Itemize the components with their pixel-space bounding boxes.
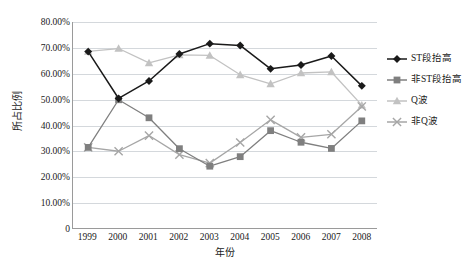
- legend-item-3[interactable]: 非Q波: [386, 111, 475, 132]
- data-point-marker: [145, 131, 153, 139]
- y-axis-tick-label: 70.00%: [4, 43, 70, 53]
- y-axis-title: 所占比例: [12, 71, 24, 151]
- data-point-marker: [236, 71, 244, 79]
- legend-label: Q波: [411, 95, 428, 106]
- y-axis-tick-labels: 010.00%20.00%30.00%40.00%50.00%60.00%70.…: [0, 22, 70, 229]
- x-axis-tick-label: 2001: [131, 231, 165, 243]
- data-point-marker: [267, 116, 275, 124]
- legend-label: 非Q波: [411, 116, 438, 127]
- legend-marker-icon: [386, 116, 408, 128]
- legend-item-2[interactable]: Q波: [386, 90, 475, 111]
- series-2: [84, 44, 366, 108]
- data-point-marker: [114, 44, 122, 52]
- data-point-marker: [237, 153, 244, 160]
- x-axis-tick-label: 2008: [345, 231, 379, 243]
- data-point-marker: [328, 145, 335, 152]
- series-1: [85, 96, 365, 169]
- series-line: [88, 44, 362, 99]
- legend-label: ST段抬高: [411, 53, 452, 64]
- legend-label: 非ST段抬高: [411, 74, 462, 85]
- y-axis-tick-label: 10.00%: [4, 198, 70, 208]
- data-point-marker: [206, 163, 213, 170]
- legend-marker-icon: [386, 74, 408, 86]
- y-axis-tick-label: 0: [4, 224, 70, 234]
- data-point-marker: [85, 144, 92, 151]
- data-point-marker: [358, 117, 365, 124]
- data-point-marker: [176, 145, 183, 152]
- legend-marker-icon: [386, 95, 408, 107]
- data-point-marker: [394, 76, 401, 83]
- legend-item-1[interactable]: 非ST段抬高: [386, 69, 475, 90]
- data-point-marker: [146, 114, 153, 121]
- series-line: [88, 106, 362, 163]
- line-chart: 010.00%20.00%30.00%40.00%50.00%60.00%70.…: [0, 0, 475, 272]
- x-axis-tick-label: 1999: [70, 231, 104, 243]
- series-line: [88, 49, 362, 106]
- x-axis-tick-label: 2000: [101, 231, 135, 243]
- x-axis-tick-labels: 1999200020012002200320042005200620072008: [72, 231, 377, 245]
- x-axis-tick-label: 2007: [314, 231, 348, 243]
- data-point-marker: [236, 138, 244, 146]
- x-axis-tick-label: 2005: [253, 231, 287, 243]
- data-point-marker: [297, 61, 305, 69]
- series-line: [88, 100, 362, 166]
- x-axis-tick-label: 2006: [284, 231, 318, 243]
- x-axis-title: 年份: [72, 247, 377, 259]
- y-axis-tick-label: 20.00%: [4, 172, 70, 182]
- data-point-marker: [206, 40, 214, 48]
- data-point-marker: [298, 139, 305, 146]
- series-0: [84, 40, 366, 103]
- x-axis-tick-label: 2004: [223, 231, 257, 243]
- y-axis-tick-label: 80.00%: [4, 17, 70, 27]
- series-3: [84, 102, 366, 167]
- x-axis-tick-label: 2003: [192, 231, 226, 243]
- x-axis-tick-label: 2002: [162, 231, 196, 243]
- legend-marker-icon: [386, 53, 408, 65]
- legend-item-0[interactable]: ST段抬高: [386, 48, 475, 69]
- series-layer: [73, 22, 377, 228]
- data-point-marker: [267, 127, 274, 134]
- data-point-marker: [393, 55, 401, 63]
- plot-area: [72, 22, 377, 229]
- chart-legend: ST段抬高非ST段抬高Q波非Q波: [386, 48, 475, 132]
